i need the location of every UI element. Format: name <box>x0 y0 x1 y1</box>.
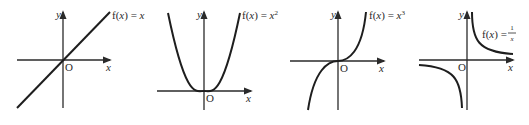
x-axis-label: x <box>245 92 251 104</box>
fraction-numerator: 1 <box>510 24 514 32</box>
origin-label: O <box>206 92 214 104</box>
graph-quadratic: y O x f(x) = x2 <box>157 8 278 110</box>
origin-label: O <box>458 61 466 73</box>
x-axis-label: x <box>378 62 384 74</box>
svg-text:f(x) =: f(x) = <box>482 28 507 41</box>
y-axis-label: y <box>196 8 202 20</box>
y-axis-label: y <box>55 8 61 20</box>
function-label: f(x) = x <box>112 9 145 22</box>
graph-reciprocal: y O x f(x) = 1 x <box>419 8 516 110</box>
graph-cubic: y O x f(x) = x3 <box>290 8 405 110</box>
function-label: f(x) = x3 <box>369 9 405 22</box>
graph-linear: y O x f(x) = x <box>17 8 145 108</box>
x-axis-label: x <box>507 61 513 73</box>
hyperbola-branch-negative <box>419 65 462 108</box>
x-axis-label: x <box>105 61 111 73</box>
fraction-denominator: x <box>509 35 514 43</box>
y-axis-label: y <box>458 8 464 20</box>
origin-label: O <box>65 61 73 73</box>
function-label: f(x) = x2 <box>242 9 278 22</box>
origin-label: O <box>340 62 348 74</box>
function-graphs-figure: y O x f(x) = x y O x f(x) = x2 y O x f(x… <box>0 0 529 125</box>
y-axis-label: y <box>330 8 336 20</box>
function-label: f(x) = 1 x <box>482 24 516 43</box>
